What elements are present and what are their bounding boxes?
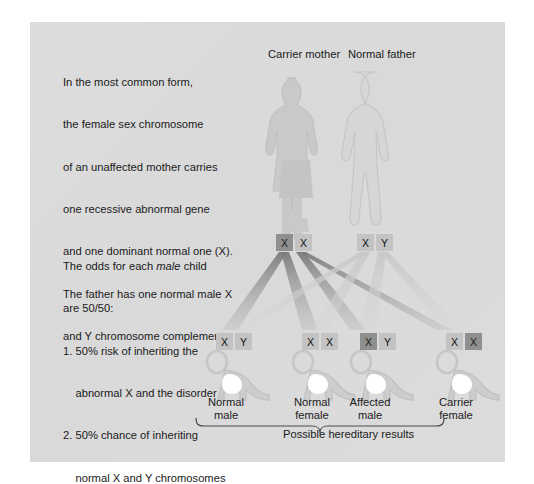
child-label-normal-male: Normal male [183, 396, 269, 422]
father-chromosome-pair: X Y [357, 234, 393, 251]
male-odds-heading-2: are 50/50: [63, 301, 226, 315]
normal-father-label: Normal father [348, 48, 416, 60]
chromosome-chip: Y [376, 234, 393, 251]
intro-line: of an unaffected mother carries [63, 160, 233, 174]
chromosome-chip: Y [235, 333, 252, 350]
child-chromosome-pair: X Y [360, 333, 396, 350]
child-label-carrier-female: Carrier female [413, 396, 499, 422]
diagram-root: In the most common form, the female sex … [0, 0, 534, 484]
chromosome-chip: X [276, 234, 293, 251]
intro-line: one recessive abnormal gene [63, 202, 233, 216]
male-odds-item: normal X and Y chromosomes [63, 471, 226, 484]
odds-text-block: The odds for each male child are 50/50: … [63, 231, 226, 484]
male-odds-item: 1. 50% risk of inheriting the [63, 344, 226, 358]
chromosome-chip: Y [379, 333, 396, 350]
chromosome-chip: X [302, 333, 319, 350]
male-odds-heading: The odds for each male child [63, 259, 226, 273]
chromosome-chip: X [357, 234, 374, 251]
chromosome-chip: X [360, 333, 377, 350]
chromosome-chip: X [321, 333, 338, 350]
child-chromosome-pair: X X [302, 333, 338, 350]
intro-line: In the most common form, [63, 75, 233, 89]
chromosome-chip: X [465, 333, 482, 350]
male-odds-item: 2. 50% chance of inheriting [63, 428, 226, 442]
child-label-affected-male: Affected male [327, 396, 413, 422]
child-chromosome-pair: X X [446, 333, 482, 350]
intro-line: the female sex chromosome [63, 117, 233, 131]
carrier-mother-label: Carrier mother [268, 48, 340, 60]
chromosome-chip: X [216, 333, 233, 350]
child-chromosome-pair: X Y [216, 333, 252, 350]
chromosome-chip: X [446, 333, 463, 350]
chromosome-chip: X [295, 234, 312, 251]
mother-chromosome-pair: X X [276, 234, 312, 251]
results-caption: Possible hereditary results [283, 428, 414, 440]
